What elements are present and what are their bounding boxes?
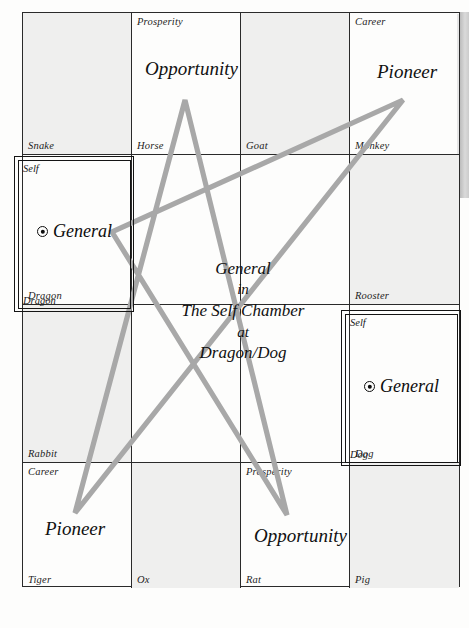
- self-chamber-dog[interactable]: Self Dog General: [341, 310, 461, 466]
- big-label-pioneer-monkey: Pioneer: [377, 61, 437, 83]
- corner-label-prosperity-rat: Prosperity: [246, 466, 292, 477]
- center-caption-line-5: Dragon/Dog: [168, 342, 318, 364]
- page-edge-artifact: [460, 12, 469, 198]
- chamber-branch-label-left: Dragon: [23, 295, 56, 306]
- grid-cell-goat[interactable]: Goat: [241, 13, 350, 155]
- branch-label-tiger: Tiger: [28, 574, 51, 585]
- grid-cell-tiger[interactable]: Career Pioneer Tiger: [23, 463, 132, 588]
- branch-label-goat: Goat: [246, 140, 268, 151]
- center-caption-line-1: General: [168, 258, 318, 280]
- grid-cell-rooster[interactable]: Rooster: [350, 155, 459, 305]
- center-caption-line-3: The Self Chamber: [168, 300, 318, 322]
- circled-dot-icon-left: [37, 226, 48, 237]
- circled-dot-icon-right: [364, 381, 375, 392]
- chamber-general-label-left: General: [53, 221, 112, 242]
- diagram-canvas: Snake Prosperity Opportunity Horse Goat …: [0, 0, 469, 628]
- branch-label-monkey: Monkey: [355, 140, 389, 151]
- grid-cell-horse[interactable]: Prosperity Opportunity Horse: [132, 13, 241, 155]
- branch-label-pig: Pig: [355, 574, 370, 585]
- grid-cell-rat[interactable]: Prosperity Opportunity Rat: [241, 463, 350, 588]
- grid-cell-ox[interactable]: Ox: [132, 463, 241, 588]
- grid-cell-pig[interactable]: Pig: [350, 463, 459, 588]
- center-caption-line-4: at: [168, 323, 318, 343]
- chamber-self-label-left: Self: [23, 163, 39, 174]
- big-label-opportunity-horse: Opportunity: [145, 58, 238, 80]
- branch-label-ox: Ox: [137, 574, 150, 585]
- chamber-general-right: General: [364, 376, 439, 397]
- branch-label-horse: Horse: [137, 140, 164, 151]
- chamber-general-label-right: General: [380, 376, 439, 397]
- big-label-pioneer-tiger: Pioneer: [45, 518, 105, 540]
- grid-cell-monkey[interactable]: Career Pioneer Monkey: [350, 13, 459, 155]
- self-chamber-dragon[interactable]: Self Dragon General: [14, 156, 134, 312]
- corner-label-career-tiger: Career: [28, 466, 59, 477]
- branch-label-rat: Rat: [246, 574, 261, 585]
- branch-label-rabbit: Rabbit: [28, 448, 57, 459]
- chamber-self-label-right: Self: [350, 317, 366, 328]
- grid-cell-rabbit[interactable]: Rabbit: [23, 305, 132, 463]
- chamber-branch-label-right: Dog: [350, 449, 368, 460]
- corner-label-prosperity-horse: Prosperity: [137, 16, 183, 27]
- center-caption-line-2: in: [168, 280, 318, 300]
- grid-cell-snake[interactable]: Snake: [23, 13, 132, 155]
- corner-label-career-monkey: Career: [355, 16, 386, 27]
- center-caption: General in The Self Chamber at Dragon/Do…: [168, 258, 318, 365]
- chamber-general-left: General: [37, 221, 112, 242]
- branch-label-rooster: Rooster: [355, 290, 389, 301]
- branch-label-snake: Snake: [28, 140, 54, 151]
- big-label-opportunity-rat: Opportunity: [254, 525, 347, 547]
